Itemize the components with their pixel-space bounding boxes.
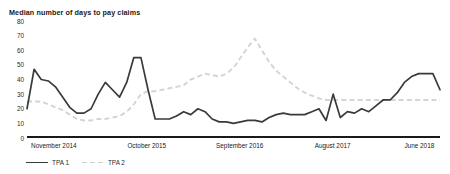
x-axis-tick-label: October 2015 (127, 142, 166, 149)
plot-area (27, 21, 440, 138)
x-axis-tick-label: September 2016 (216, 142, 263, 149)
y-axis-tick-label: 0 (0, 135, 24, 142)
legend-label: TPA 2 (108, 159, 125, 166)
y-axis-tick-label: 30 (0, 91, 24, 98)
chart-legend: TPA 1TPA 2 (26, 159, 125, 166)
y-axis-tick-label: 80 (0, 18, 24, 25)
x-axis-line (27, 136, 440, 138)
y-axis-tick-label: 70 (0, 32, 24, 39)
y-axis-tick-label: 10 (0, 120, 24, 127)
legend-swatch-dashed-icon (82, 159, 104, 166)
y-axis-tick-label: 20 (0, 105, 24, 112)
legend-item[interactable]: TPA 2 (82, 159, 125, 166)
y-axis-tick-label: 60 (0, 47, 24, 54)
y-axis-tick-label: 40 (0, 76, 24, 83)
series-line-tpa-2 (27, 39, 440, 121)
chart-title: Median number of days to pay claims (9, 8, 140, 17)
y-axis: 80706050403020100 (0, 21, 24, 138)
legend-item[interactable]: TPA 1 (26, 159, 69, 166)
chart-container: Median number of days to pay claims 8070… (0, 0, 450, 174)
x-axis-tick-label: June 2018 (404, 142, 434, 149)
legend-label: TPA 1 (52, 159, 69, 166)
x-axis: November 2014October 2015September 2016A… (0, 142, 450, 154)
series-line-tpa-1 (27, 58, 440, 124)
x-axis-tick-label: November 2014 (31, 142, 76, 149)
legend-swatch-solid-icon (26, 159, 48, 166)
series-canvas (27, 21, 440, 138)
y-axis-tick-label: 50 (0, 61, 24, 68)
x-axis-tick-label: August 2017 (315, 142, 351, 149)
